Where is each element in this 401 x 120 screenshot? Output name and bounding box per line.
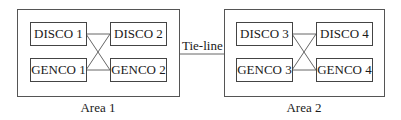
genco-2-node: GENCO 2: [110, 58, 167, 82]
genco-3-node: GENCO 3: [236, 58, 293, 82]
tie-line-label: Tie-line: [182, 38, 223, 54]
genco-1-node: GENCO 1: [30, 58, 87, 82]
genco-4-node: GENCO 4: [316, 58, 373, 82]
disco-1-node: DISCO 1: [30, 22, 87, 46]
disco-2-node: DISCO 2: [110, 22, 167, 46]
disco-4-node: DISCO 4: [316, 22, 373, 46]
area-1-label: Area 1: [58, 100, 138, 116]
disco-3-node: DISCO 3: [236, 22, 293, 46]
area-2-label: Area 2: [264, 100, 344, 116]
